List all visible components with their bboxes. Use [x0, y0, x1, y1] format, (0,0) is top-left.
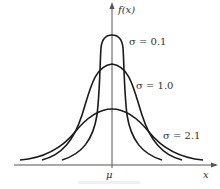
label-sigma-1-0: σ = 1.0	[136, 80, 173, 91]
x-axis-label: x	[203, 169, 209, 180]
y-axis-arrow-icon	[110, 2, 115, 9]
x-axis-arrow-icon	[211, 163, 218, 168]
y-axis-label: f(x)	[117, 4, 135, 15]
caption-faint	[78, 181, 140, 184]
normal-distribution-chart: f(x) x μ σ = 0.1 σ = 1.0 σ = 2.1	[0, 0, 220, 189]
label-sigma-2-1: σ = 2.1	[163, 130, 200, 141]
mu-tick-label: μ	[106, 169, 113, 180]
label-sigma-0-1: σ = 0.1	[129, 36, 166, 47]
